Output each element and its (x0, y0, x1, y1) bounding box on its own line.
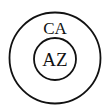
inner-set-label: AZ (42, 49, 67, 70)
euler-diagram: CA AZ (0, 0, 110, 112)
outer-set-label: CA (43, 19, 67, 38)
